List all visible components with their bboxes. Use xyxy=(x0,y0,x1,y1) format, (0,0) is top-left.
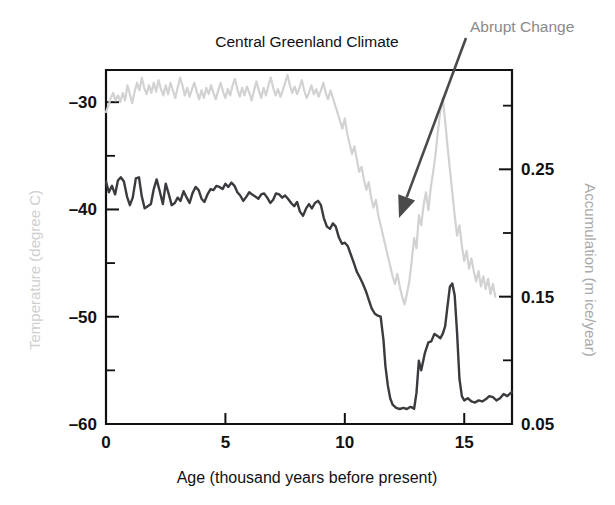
annotation-label: Abrupt Change xyxy=(470,18,574,35)
chart-canvas: Central Greenland Climate –30–40–50–60 0… xyxy=(0,0,615,505)
climate-chart-figure: Central Greenland Climate –30–40–50–60 0… xyxy=(0,0,615,505)
right-tick-label: 0.05 xyxy=(521,415,554,434)
left-tick-label: –60 xyxy=(69,415,97,434)
x-tick-label: 15 xyxy=(455,433,474,452)
plot-border xyxy=(106,70,512,424)
x-axis-ticklabels: 051015 xyxy=(101,433,473,452)
x-tick-label: 10 xyxy=(335,433,354,452)
right-axis-ticks xyxy=(499,106,512,424)
annotation-layer: Abrupt Change xyxy=(398,18,574,218)
left-axis-ticks xyxy=(106,102,119,424)
x-tick-label: 5 xyxy=(221,433,230,452)
chart-title: Central Greenland Climate xyxy=(215,33,399,50)
x-tick-label: 0 xyxy=(101,433,110,452)
left-tick-label: –30 xyxy=(69,93,97,112)
annotation-arrow-head xyxy=(398,194,415,218)
series-line-temperature xyxy=(106,177,512,409)
left-tick-label: –40 xyxy=(69,200,97,219)
plot-frame xyxy=(106,70,512,424)
data-series-layer xyxy=(106,75,512,409)
right-axis-ticklabels: 0.250.150.05 xyxy=(521,160,554,434)
left-tick-label: –50 xyxy=(69,308,97,327)
annotation-arrow-line xyxy=(407,38,466,197)
x-axis-ticks xyxy=(106,413,464,424)
left-axis-title: Temperature (degree C) xyxy=(26,190,43,350)
x-axis-title: Age (thousand years before present) xyxy=(177,469,438,486)
left-axis-ticklabels: –30–40–50–60 xyxy=(69,93,97,434)
right-tick-label: 0.25 xyxy=(521,160,554,179)
right-tick-label: 0.15 xyxy=(521,288,554,307)
right-axis-title: Accumulation (m ice/year) xyxy=(582,183,599,356)
